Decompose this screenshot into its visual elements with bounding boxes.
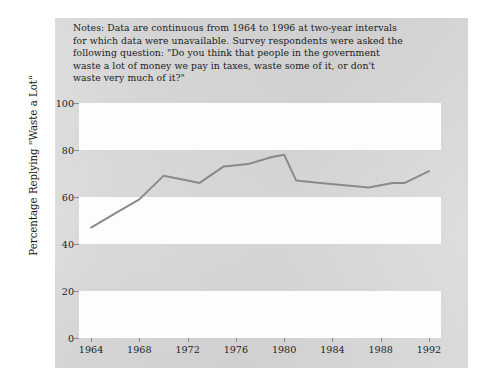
chart-notes: Notes: Data are continuous from 1964 to … <box>73 22 413 85</box>
notes-line: waste very much of it?" <box>73 72 413 85</box>
notes-line: waste a lot of money we pay in taxes, wa… <box>73 60 413 73</box>
x-tick-mark <box>236 338 237 342</box>
x-tick-label: 1972 <box>175 344 199 355</box>
notes-line: for which data were unavailable. Survey … <box>73 35 413 48</box>
y-tick-mark <box>74 244 79 245</box>
x-tick-mark <box>381 338 382 342</box>
x-tick-mark <box>188 338 189 342</box>
x-tick-mark <box>429 338 430 342</box>
x-tick-label: 1988 <box>368 344 392 355</box>
notes-line: Notes: Data are continuous from 1964 to … <box>73 22 413 35</box>
x-tick-label: 1980 <box>272 344 296 355</box>
y-tick-mark <box>74 291 79 292</box>
x-tick-label: 1992 <box>417 344 441 355</box>
x-tick-mark <box>284 338 285 342</box>
x-tick-label: 1984 <box>320 344 344 355</box>
y-tick-mark <box>74 150 79 151</box>
x-tick-label: 1976 <box>224 344 248 355</box>
y-tick-mark <box>74 103 79 104</box>
x-tick-mark <box>139 338 140 342</box>
y-tick-mark <box>74 338 79 339</box>
x-tick-label: 1968 <box>127 344 151 355</box>
series-polyline <box>91 155 429 228</box>
x-tick-mark <box>91 338 92 342</box>
y-tick-mark <box>74 197 79 198</box>
x-tick-mark <box>332 338 333 342</box>
notes-line: following question: "Do you think that p… <box>73 47 413 60</box>
x-tick-label: 1964 <box>79 344 103 355</box>
